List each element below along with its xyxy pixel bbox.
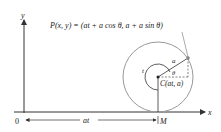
y-axis-label: y [20,11,25,20]
theta-label: θ [172,69,176,76]
x-axis-label: x [207,108,212,117]
M-label: M [159,117,168,126]
P-leader-line [182,32,188,57]
center-label: C(at, a) [160,79,184,88]
radius-label: a [172,57,176,65]
cycloid-diagram: y x 0 at M t a θ C(at, a) P(x, y) = (at … [0,0,221,132]
t-label: t [142,67,145,75]
point-P-label: P(x, y) = (at + a cos θ, a + a sin θ) [49,21,163,30]
origin-label: 0 [15,117,19,126]
distance-at-label: at [83,116,90,125]
